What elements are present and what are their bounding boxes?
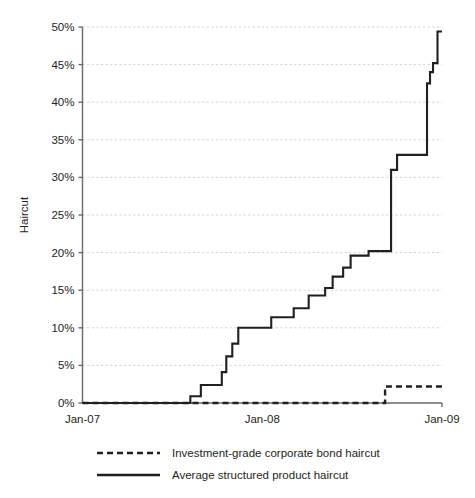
x-tick-label-Jan-09: Jan-09 bbox=[424, 413, 459, 425]
y-tick-label-5%: 5% bbox=[58, 359, 75, 371]
y-tick-label-40%: 40% bbox=[51, 96, 74, 108]
y-tick-label-35%: 35% bbox=[51, 134, 74, 146]
legend-label-0: Investment-grade corporate bond haircut bbox=[172, 447, 381, 459]
y-tick-label-25%: 25% bbox=[51, 209, 74, 221]
chart-canvas: 0%5%10%15%20%25%30%35%40%45%50% Jan-07Ja… bbox=[0, 0, 475, 498]
haircut-chart: 0%5%10%15%20%25%30%35%40%45%50% Jan-07Ja… bbox=[0, 0, 475, 498]
legend-label-1: Average structured product haircut bbox=[172, 469, 349, 481]
y-tick-label-10%: 10% bbox=[51, 322, 74, 334]
y-axis-title-label: Haircut bbox=[18, 196, 30, 233]
y-tick-label-45%: 45% bbox=[51, 59, 74, 71]
y-axis-title: Haircut bbox=[18, 196, 30, 233]
y-axis-tick-labels: 0%5%10%15%20%25%30%35%40%45%50% bbox=[51, 21, 82, 409]
x-tick-label-Jan-07: Jan-07 bbox=[65, 413, 100, 425]
gridlines bbox=[83, 27, 443, 365]
y-tick-label-50%: 50% bbox=[51, 21, 74, 33]
y-tick-label-20%: 20% bbox=[51, 247, 74, 259]
x-tick-label-Jan-08: Jan-08 bbox=[245, 413, 280, 425]
series-line-0 bbox=[83, 386, 443, 403]
y-tick-label-0%: 0% bbox=[58, 397, 75, 409]
series-line-1 bbox=[83, 32, 443, 403]
x-axis-tick-labels: Jan-07Jan-08Jan-09 bbox=[65, 413, 460, 425]
chart-legend: Investment-grade corporate bond haircutA… bbox=[97, 447, 381, 481]
y-tick-label-30%: 30% bbox=[51, 171, 74, 183]
y-tick-label-15%: 15% bbox=[51, 284, 74, 296]
data-series bbox=[83, 32, 443, 403]
axes bbox=[83, 27, 443, 407]
